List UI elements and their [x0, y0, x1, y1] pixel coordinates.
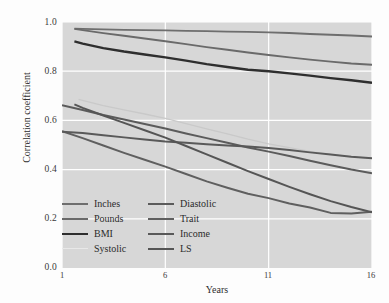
legend-item-systolic[interactable]: Systolic	[62, 241, 126, 256]
chart-figure: 1.0 0.8 0.6 0.4 0.2 0.0 Correlation coef…	[0, 0, 389, 303]
legend-label-income: Income	[180, 228, 210, 239]
x-axis-tick-1: 1	[47, 270, 77, 280]
legend-item-income[interactable]: Income	[148, 226, 216, 241]
legend-swatch-pounds	[62, 218, 88, 220]
x-axis-tick-6: 6	[150, 270, 180, 280]
y-axis-tick-1-0: 1.0	[17, 17, 57, 27]
legend-item-bmi[interactable]: BMI	[62, 226, 126, 241]
legend-swatch-income	[148, 233, 174, 235]
legend-item-trait[interactable]: Trait	[148, 211, 216, 226]
legend-label-bmi: BMI	[94, 228, 113, 239]
legend-label-systolic: Systolic	[94, 243, 126, 254]
legend-swatch-inches	[62, 203, 88, 205]
legend-label-diastolic: Diastolic	[180, 198, 216, 209]
legend-swatch-systolic	[62, 248, 88, 249]
legend-item-diastolic[interactable]: Diastolic	[148, 196, 216, 211]
legend-item-inches[interactable]: Inches	[62, 196, 126, 211]
legend-swatch-trait	[148, 218, 174, 220]
y-axis-tick-0-2: 0.2	[17, 213, 57, 223]
x-axis-tick-11: 11	[253, 270, 283, 280]
legend-swatch-diastolic	[148, 203, 174, 205]
legend-swatch-ls	[148, 248, 174, 250]
series-line-income	[62, 132, 372, 159]
legend-label-pounds: Pounds	[94, 213, 123, 224]
legend-column-2: Diastolic Trait Income LS	[148, 196, 216, 256]
series-line-diastolic	[62, 105, 372, 173]
legend-label-trait: Trait	[180, 213, 199, 224]
x-axis-tick-16: 16	[356, 270, 386, 280]
legend-item-pounds[interactable]: Pounds	[62, 211, 126, 226]
legend-swatch-bmi	[62, 233, 88, 235]
series-line-systolic	[79, 99, 372, 158]
legend-column-1: Inches Pounds BMI Systolic	[62, 196, 126, 256]
legend-label-ls: LS	[180, 243, 192, 254]
y-axis-label: Correlation coefficient	[21, 38, 32, 198]
legend-label-inches: Inches	[94, 198, 120, 209]
x-axis-label: Years	[62, 284, 372, 295]
legend-item-ls[interactable]: LS	[148, 241, 216, 256]
chart-legend: Inches Pounds BMI Systolic Diastolic	[60, 196, 236, 258]
series-lines	[62, 29, 372, 214]
